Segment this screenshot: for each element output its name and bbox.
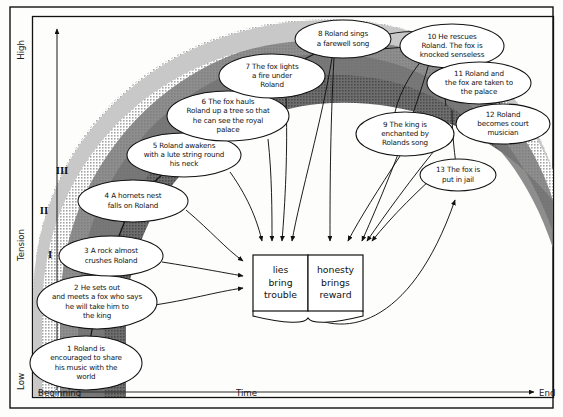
event-node-label-5: 5 Roland awakens bbox=[153, 141, 216, 150]
moral-book: liesbringtrouble honestybringsreward bbox=[253, 255, 363, 322]
event-node-label-8: 8 Roland sings bbox=[318, 29, 369, 38]
event-node-7[interactable]: 7 The fox lightsa fire underRoland bbox=[219, 54, 325, 98]
diagram-canvas: High Tension Low Beginning Time End I II… bbox=[0, 0, 563, 417]
y-axis-high-label: High bbox=[16, 40, 26, 60]
book-line: honesty bbox=[317, 264, 355, 275]
y-axis-title: Tension bbox=[16, 229, 26, 262]
event-node-label-3: 3 A rock almost bbox=[84, 246, 138, 255]
event-node-label-11: the palace bbox=[461, 87, 498, 96]
connector-from-4 bbox=[186, 210, 243, 261]
event-node-label-9: 9 The king is bbox=[383, 120, 427, 129]
event-node-label-12: 12 Roland bbox=[486, 110, 521, 119]
connector-from-6 bbox=[268, 139, 272, 241]
event-node-label-1: encouraged to share bbox=[50, 353, 122, 362]
book-right-text: honestybringsreward bbox=[317, 264, 355, 300]
book-line: brings bbox=[321, 277, 350, 288]
event-node-label-2: 2 He sets out bbox=[74, 283, 120, 292]
band-numeral-iii: III bbox=[56, 166, 69, 176]
event-node-label-8: a farewell song bbox=[317, 39, 369, 48]
event-node-label-1: his music with the bbox=[55, 363, 118, 372]
event-node-12[interactable]: 12 Rolandbecomes courtmusician bbox=[456, 104, 550, 144]
event-node-1[interactable]: 1 Roland isencouraged to sharehis music … bbox=[30, 336, 142, 390]
event-node-13[interactable]: 13 The fox isput in jail bbox=[420, 159, 496, 191]
event-node-8[interactable]: 8 Roland singsa farewell song bbox=[295, 20, 391, 58]
event-node-label-6: Roland up a tree so that bbox=[186, 106, 269, 115]
event-node-11[interactable]: 11 Roland andthe fox are taken tothe pal… bbox=[427, 62, 531, 104]
x-axis-title: Time bbox=[235, 388, 257, 398]
event-node-label-3: crushes Roland bbox=[85, 256, 138, 265]
event-node-9[interactable]: 9 The king isenchanted byRolands song bbox=[356, 112, 454, 156]
event-node-label-10: knocked senseless bbox=[420, 50, 485, 59]
event-node-label-13: 13 The fox is bbox=[436, 165, 481, 174]
event-node-label-10: Roland. The fox is bbox=[421, 41, 483, 50]
event-node-label-7: Roland bbox=[260, 80, 284, 89]
event-node-label-1: 1 Roland is bbox=[67, 344, 105, 353]
event-node-3[interactable]: 3 A rock almostcrushes Roland bbox=[59, 236, 163, 276]
book-line: bring bbox=[268, 277, 292, 288]
event-node-label-6: 6 The fox hauls bbox=[202, 97, 255, 106]
event-node-label-12: musician bbox=[487, 128, 518, 137]
event-node-label-10: 10 He rescues bbox=[427, 32, 477, 41]
tension-arc-svg: High Tension Low Beginning Time End I II… bbox=[0, 0, 563, 417]
event-node-label-11: the fox are taken to bbox=[445, 78, 513, 87]
x-axis-end-label: End bbox=[539, 388, 555, 398]
event-node-label-6: he can see the royal bbox=[193, 116, 263, 125]
y-axis-low-label: Low bbox=[16, 373, 26, 390]
event-node-label-2: he will take him to bbox=[65, 302, 128, 311]
event-node-2[interactable]: 2 He sets outand meets a fox who sayshe … bbox=[37, 275, 157, 329]
event-node-label-9: enchanted by bbox=[381, 129, 429, 138]
event-node-label-11: 11 Roland and bbox=[454, 69, 504, 78]
book-line: reward bbox=[319, 289, 351, 300]
event-node-label-5: with a lute string round bbox=[144, 150, 225, 159]
event-node-label-5: his neck bbox=[170, 159, 199, 168]
connector-from-5 bbox=[230, 172, 262, 241]
event-node-label-9: Rolands song bbox=[382, 138, 428, 147]
band-numeral-i: I bbox=[48, 250, 52, 260]
book-line: lies bbox=[273, 264, 289, 275]
event-node-label-2: and meets a fox who says bbox=[52, 292, 143, 301]
band-numeral-ii: II bbox=[40, 206, 48, 216]
event-node-label-4: falls on Roland bbox=[108, 201, 159, 210]
connector-from-2 bbox=[148, 288, 243, 306]
event-node-10[interactable]: 10 He rescuesRoland. The fox isknocked s… bbox=[400, 24, 504, 68]
connector-from-3 bbox=[162, 262, 243, 276]
event-node-label-4: 4 A hornets nest bbox=[105, 191, 162, 200]
event-node-label-1: world bbox=[76, 372, 95, 381]
event-node-label-7: a fire under bbox=[252, 71, 292, 80]
event-node-label-2: the king bbox=[83, 311, 111, 320]
event-node-label-12: becomes court bbox=[477, 119, 529, 128]
event-node-4[interactable]: 4 A hornets nestfalls on Roland bbox=[78, 180, 188, 222]
book-line: trouble bbox=[264, 289, 297, 300]
event-node-label-7: 7 The fox lights bbox=[245, 62, 298, 71]
event-node-label-6: palace bbox=[217, 125, 241, 134]
event-node-label-13: put in jail bbox=[442, 175, 474, 184]
